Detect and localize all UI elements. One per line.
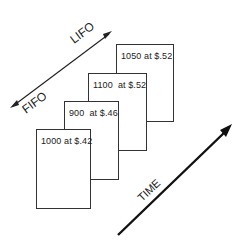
time-label: TIME [135,177,162,204]
inventory-layer-card-1000: 1000 at $.42 [36,129,91,209]
inventory-layer-label: 1100 at $.52 [93,80,146,90]
lifo-label: LIFO [67,19,97,46]
inventory-layer-label: 900 at $.46 [69,108,118,118]
inventory-layer-label: 1000 at $.42 [41,136,92,146]
inventory-layers-diagram: FIFO LIFO TIME 1050 at $.52 1100 at $.52… [0,0,240,243]
fifo-label: FIFO [19,89,49,117]
arrowhead-left-icon [10,100,19,108]
inventory-layer-label: 1050 at $.52 [121,51,172,61]
